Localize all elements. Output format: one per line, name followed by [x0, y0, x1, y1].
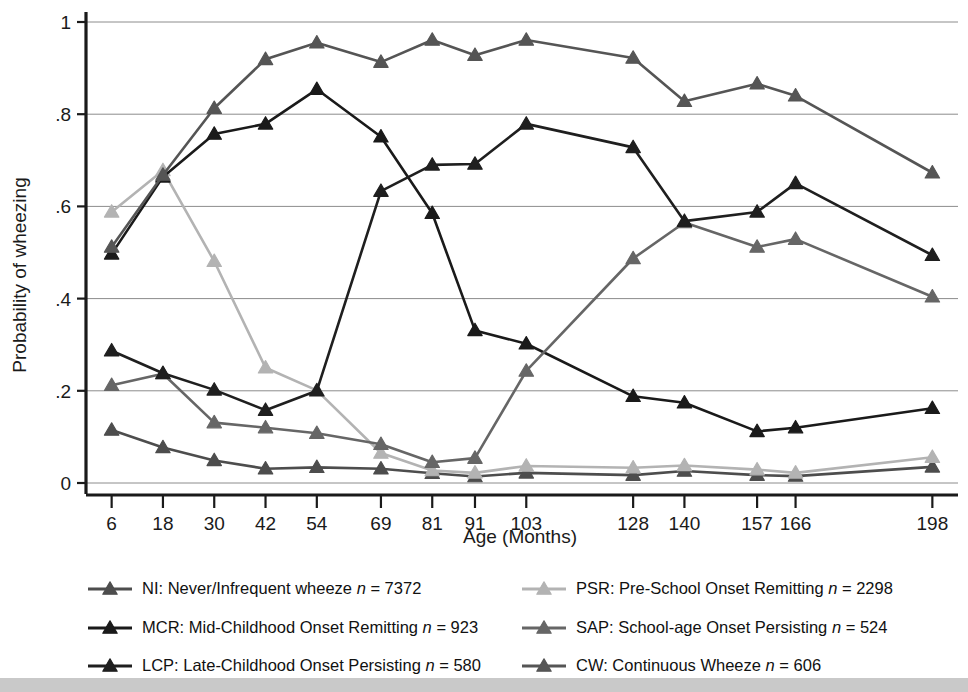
- x-tick-label: 6: [106, 513, 117, 534]
- x-tick-label: 30: [204, 513, 225, 534]
- x-tick-label: 198: [917, 513, 949, 534]
- legend-item-mcr[interactable]: MCR: Mid-Childhood Onset Remitting n = 9…: [88, 618, 478, 636]
- x-tick-label: 18: [152, 513, 173, 534]
- y-tick-label: .8: [55, 104, 71, 125]
- y-tick-label: .2: [55, 381, 71, 402]
- legend-label-cw: CW: Continuous Wheeze n = 606: [576, 656, 821, 674]
- legend-item-sap[interactable]: SAP: School-age Onset Persisting n = 524: [522, 618, 887, 636]
- x-tick-label: 81: [422, 513, 443, 534]
- x-tick-label: 140: [669, 513, 701, 534]
- legend-label-mcr: MCR: Mid-Childhood Onset Remitting n = 9…: [142, 618, 478, 636]
- bottom-bar: [0, 678, 968, 692]
- x-tick-label: 42: [255, 513, 276, 534]
- x-axis-title: Age (Months): [463, 526, 577, 547]
- legend-label-ni: NI: Never/Infrequent wheeze n = 7372: [142, 579, 421, 597]
- x-tick-label: 54: [306, 513, 328, 534]
- x-tick-label: 157: [741, 513, 773, 534]
- y-tick-label: 0: [60, 473, 71, 494]
- x-tick-label: 166: [780, 513, 812, 534]
- legend-item-psr[interactable]: PSR: Pre-School Onset Remitting n = 2298: [522, 579, 893, 597]
- x-tick-label: 69: [370, 513, 391, 534]
- legend-label-sap: SAP: School-age Onset Persisting n = 524: [576, 618, 887, 636]
- legend-label-psr: PSR: Pre-School Onset Remitting n = 2298: [576, 579, 893, 597]
- x-tick-label: 128: [617, 513, 649, 534]
- y-tick-label: .4: [55, 289, 71, 310]
- y-tick-label: .6: [55, 196, 71, 217]
- legend-item-lcp[interactable]: LCP: Late-Childhood Onset Persisting n =…: [88, 656, 481, 674]
- wheezing-probability-chart: 0.2.4.6.81 61830425469819110312814015716…: [0, 0, 968, 692]
- y-axis-title: Probability of wheezing: [9, 177, 30, 372]
- y-tick-label: 1: [60, 12, 71, 33]
- legend-label-lcp: LCP: Late-Childhood Onset Persisting n =…: [142, 656, 481, 674]
